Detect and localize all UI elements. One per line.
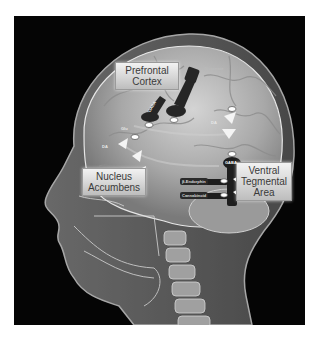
label-line: Tegmental <box>240 176 288 187</box>
label-line: Nucleus <box>86 171 142 182</box>
nt-glu-nac: Glu <box>121 126 128 131</box>
nt-glutamate-top: Glutamate <box>204 66 224 71</box>
nt-cannabinoid: Cannabinoid <box>180 192 208 199</box>
label-nucleus-accumbens: Nucleus Accumbens <box>82 168 146 196</box>
label-line: Accumbens <box>86 182 142 193</box>
label-ventral-tegmental-area: Ventral Tegmental Area <box>236 162 292 201</box>
nt-gaba-vta: GABA <box>225 160 237 165</box>
label-line: Cortex <box>119 76 175 87</box>
nt-endorphin: β-Endorphin <box>180 178 208 185</box>
diagram-frame: Prefrontal Cortex Nucleus Accumbens Vent… <box>14 16 305 325</box>
label-line: Area <box>240 187 288 198</box>
label-line: Prefrontal <box>119 65 175 76</box>
label-line: Ventral <box>240 165 288 176</box>
nt-da-nac: DA <box>102 144 108 149</box>
label-prefrontal-cortex: Prefrontal Cortex <box>115 62 179 90</box>
nt-da-pfc: DA <box>211 120 217 125</box>
